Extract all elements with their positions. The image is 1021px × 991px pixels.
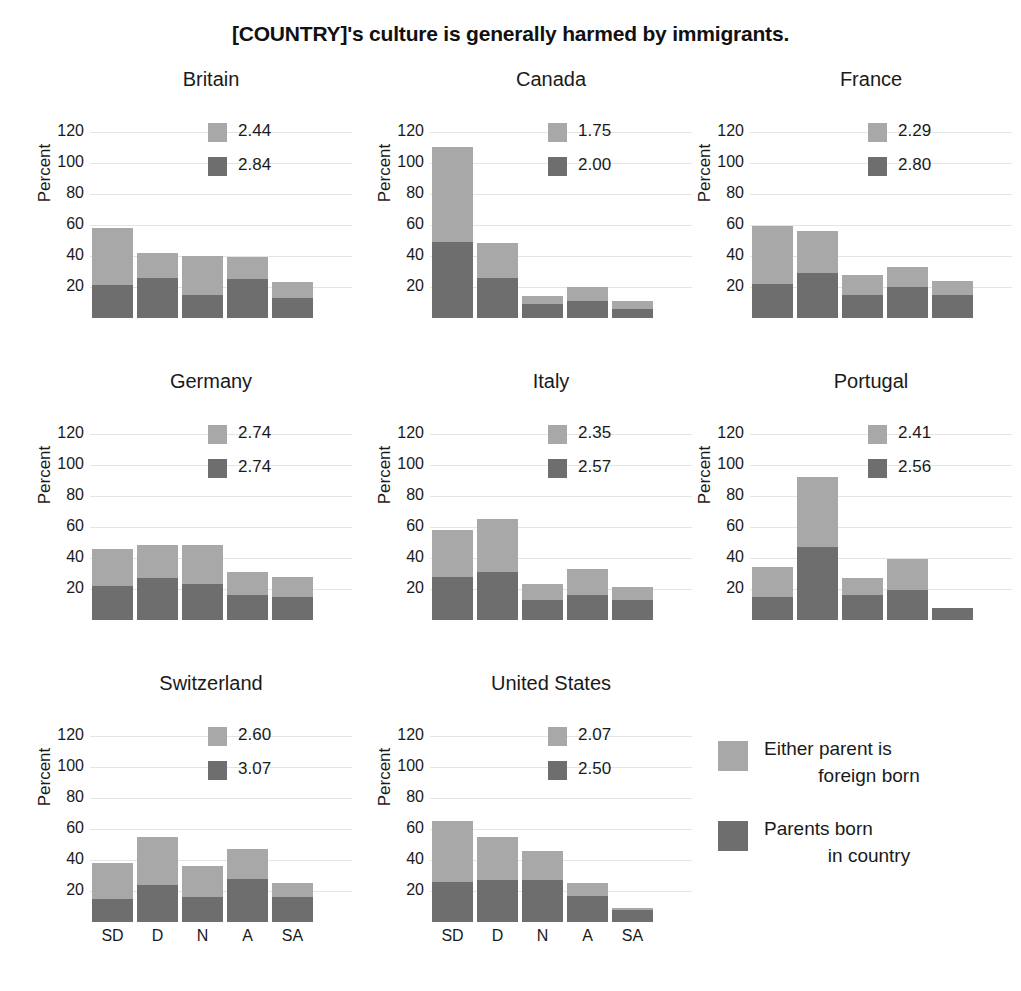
panel-legend-swatch-light-icon — [868, 123, 887, 142]
panel-mean-row: 2.74 — [208, 456, 348, 490]
panel-title: Switzerland — [70, 672, 352, 695]
legend-swatch-light-icon — [718, 741, 748, 771]
x-tick-label: SD — [92, 927, 133, 945]
bar-SD — [752, 567, 793, 620]
bar-segment-native-born — [887, 590, 928, 620]
bar-D — [797, 477, 838, 620]
y-tick-label: 40 — [698, 549, 744, 565]
legend-label-native-born: Parents born in country — [764, 815, 974, 869]
bar-segment-native-born — [842, 595, 883, 620]
bar-segment-native-born — [477, 572, 518, 620]
bar-N — [522, 851, 563, 922]
legend-label-line2: in country — [764, 842, 974, 869]
bar-segment-native-born — [182, 897, 223, 922]
y-axis-ticks: 12010080604020 — [692, 68, 744, 358]
y-tick-label: 20 — [38, 882, 84, 898]
bar-SA — [612, 587, 653, 620]
bar-segment-native-born — [272, 298, 313, 318]
bar-segment-foreign-born — [92, 863, 133, 899]
bar-SA — [612, 908, 653, 922]
y-tick-label: 80 — [378, 789, 424, 805]
panel-britain: BritainPercent120100806040202.442.84 — [22, 68, 352, 358]
bar-N — [182, 545, 223, 620]
bar-SD — [92, 863, 133, 922]
bar-SD — [92, 549, 133, 620]
bar-segment-native-born — [932, 608, 973, 620]
panel-mean-row: 2.44 — [208, 120, 348, 154]
y-tick-label: 100 — [698, 154, 744, 170]
panel-italy: ItalyPercent120100806040202.352.57 — [362, 370, 692, 660]
y-tick-label: 100 — [38, 758, 84, 774]
bar-segment-native-born — [567, 301, 608, 318]
panel-mean-value: 2.07 — [578, 725, 611, 745]
panel-mean-row: 2.00 — [548, 154, 688, 188]
bar-D — [797, 231, 838, 318]
y-axis-ticks: 12010080604020 — [372, 370, 424, 660]
bar-N — [182, 256, 223, 318]
bar-A — [887, 559, 928, 620]
panel-title: France — [730, 68, 1012, 91]
y-axis-ticks: 12010080604020 — [692, 370, 744, 660]
y-tick-label: 60 — [38, 518, 84, 534]
bar-segment-foreign-born — [887, 559, 928, 590]
panel-legend-swatch-light-icon — [208, 123, 227, 142]
bar-D — [477, 243, 518, 318]
bar-segment-foreign-born — [272, 883, 313, 897]
chart-figure: [COUNTRY]'s culture is generally harmed … — [0, 0, 1021, 991]
y-tick-label: 100 — [378, 154, 424, 170]
bar-segment-foreign-born — [842, 578, 883, 595]
panel-title: Italy — [410, 370, 692, 393]
y-tick-label: 40 — [38, 247, 84, 263]
gridline — [90, 194, 352, 195]
bar-SA — [272, 282, 313, 318]
bar-segment-foreign-born — [522, 584, 563, 600]
bar-segment-native-born — [522, 880, 563, 922]
bar-segment-foreign-born — [522, 296, 563, 304]
bar-segment-foreign-born — [227, 257, 268, 279]
bar-segment-foreign-born — [182, 256, 223, 295]
y-tick-label: 20 — [38, 580, 84, 596]
bar-segment-native-born — [432, 242, 473, 318]
panel-legend-swatch-dark-icon — [868, 459, 887, 478]
bar-SA — [932, 608, 973, 620]
bar-segment-foreign-born — [477, 837, 518, 881]
bar-segment-native-born — [137, 885, 178, 922]
y-tick-label: 80 — [378, 185, 424, 201]
figure-title: [COUNTRY]'s culture is generally harmed … — [0, 22, 1021, 46]
panel-mean-value: 1.75 — [578, 121, 611, 141]
panel-mean-value: 2.50 — [578, 759, 611, 779]
panel-mean-value: 2.74 — [238, 423, 271, 443]
panel-legend-swatch-dark-icon — [548, 157, 567, 176]
x-tick-label: SA — [612, 927, 653, 945]
panel-france: FrancePercent120100806040202.292.80 — [682, 68, 1012, 358]
bar-segment-native-born — [887, 287, 928, 318]
bar-segment-native-born — [92, 285, 133, 318]
bar-segment-foreign-born — [432, 147, 473, 242]
panel-mean-row: 3.07 — [208, 758, 348, 792]
panel-legend-swatch-light-icon — [548, 123, 567, 142]
bar-segment-foreign-born — [932, 281, 973, 295]
y-tick-label: 80 — [698, 185, 744, 201]
y-tick-label: 20 — [698, 580, 744, 596]
panel-portugal: PortugalPercent120100806040202.412.56 — [682, 370, 1012, 660]
y-tick-label: 20 — [38, 278, 84, 294]
gridline — [90, 496, 352, 497]
panel-mean-row: 2.35 — [548, 422, 688, 456]
bar-segment-foreign-born — [137, 545, 178, 578]
y-tick-label: 100 — [698, 456, 744, 472]
panel-mean-legend: 2.072.50 — [548, 724, 688, 792]
y-tick-label: 100 — [38, 154, 84, 170]
y-tick-label: 40 — [378, 247, 424, 263]
y-axis-ticks: 12010080604020 — [372, 68, 424, 358]
bar-segment-native-born — [842, 295, 883, 318]
bar-segment-foreign-born — [752, 567, 793, 597]
bar-segment-native-born — [612, 600, 653, 620]
y-tick-label: 80 — [698, 487, 744, 503]
panel-mean-row: 2.56 — [868, 456, 1008, 490]
bar-segment-foreign-born — [137, 253, 178, 278]
y-tick-label: 80 — [38, 789, 84, 805]
bar-A — [887, 267, 928, 318]
y-tick-label: 80 — [378, 487, 424, 503]
panel-mean-row: 2.57 — [548, 456, 688, 490]
panel-title: Britain — [70, 68, 352, 91]
